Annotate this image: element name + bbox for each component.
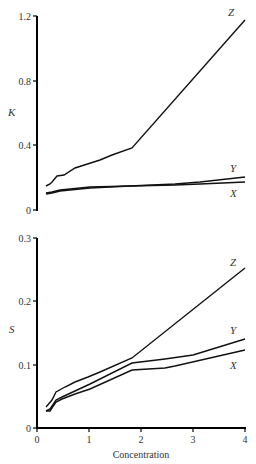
- label-k-z: Z: [228, 6, 235, 18]
- tick-label: 4: [243, 434, 248, 445]
- s-x-tick-labels: 0 1 2 3 4: [35, 434, 248, 445]
- label-s-y: Y: [230, 324, 238, 336]
- tick-label: 0.3: [19, 233, 32, 244]
- tick-label: 0.4: [19, 140, 32, 151]
- tick-label: 0.1: [19, 360, 32, 371]
- line-s-x: [46, 350, 245, 411]
- line-k-z: [46, 20, 245, 186]
- s-y-tick-labels: 0.3 0.2 0.1 0: [19, 233, 32, 434]
- x-axis-label: Concentration: [113, 449, 170, 460]
- figure: 1.2 0.8 0.4 0 K Z Y X 0.3: [0, 0, 256, 464]
- tick-label: 1.2: [19, 11, 32, 22]
- tick-label: 0.8: [19, 76, 32, 87]
- s-axis-label: S: [9, 323, 15, 335]
- line-s-z: [46, 268, 245, 407]
- tick-label: 1: [87, 434, 92, 445]
- label-k-x: X: [229, 187, 238, 199]
- line-s-y: [46, 339, 245, 411]
- label-k-y: Y: [230, 162, 238, 174]
- k-axis-label: K: [7, 106, 16, 118]
- tick-label: 3: [191, 434, 196, 445]
- tick-label: 0.2: [19, 296, 32, 307]
- tick-label: 0: [26, 205, 31, 216]
- chart-s: 0.3 0.2 0.1 0 0 1 2 3 4 Concentration S …: [9, 233, 248, 460]
- label-s-z: Z: [230, 256, 237, 268]
- tick-label: 0: [35, 434, 40, 445]
- chart-k: 1.2 0.8 0.4 0 K Z Y X: [7, 6, 245, 216]
- k-y-tick-labels: 1.2 0.8 0.4 0: [19, 11, 32, 216]
- label-s-x: X: [229, 359, 238, 371]
- tick-label: 2: [139, 434, 144, 445]
- tick-label: 0: [26, 423, 31, 434]
